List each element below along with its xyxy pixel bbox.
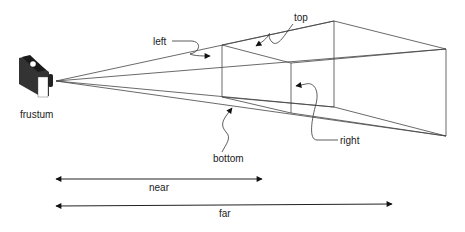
top-label: top (294, 12, 308, 23)
bottom-plane-callout: bottom (213, 108, 244, 164)
frustum-edges (56, 21, 446, 136)
left-plane-callout: left (153, 36, 210, 56)
frustum-diagram: left top right bottom frustum near far (0, 0, 465, 232)
bottom-label: bottom (213, 153, 244, 164)
frustum-label: frustum (20, 109, 53, 120)
top-plane-callout: top (256, 12, 308, 46)
near-label: near (149, 182, 170, 193)
right-label: right (340, 135, 360, 146)
far-dimension: far (56, 204, 392, 219)
left-label: left (153, 36, 167, 47)
diagram-canvas: left top right bottom frustum near far (0, 0, 465, 232)
far-plane (334, 21, 446, 136)
camera-icon (19, 55, 53, 97)
near-dimension: near (56, 179, 262, 193)
far-label: far (219, 208, 231, 219)
near-plane (222, 45, 291, 113)
